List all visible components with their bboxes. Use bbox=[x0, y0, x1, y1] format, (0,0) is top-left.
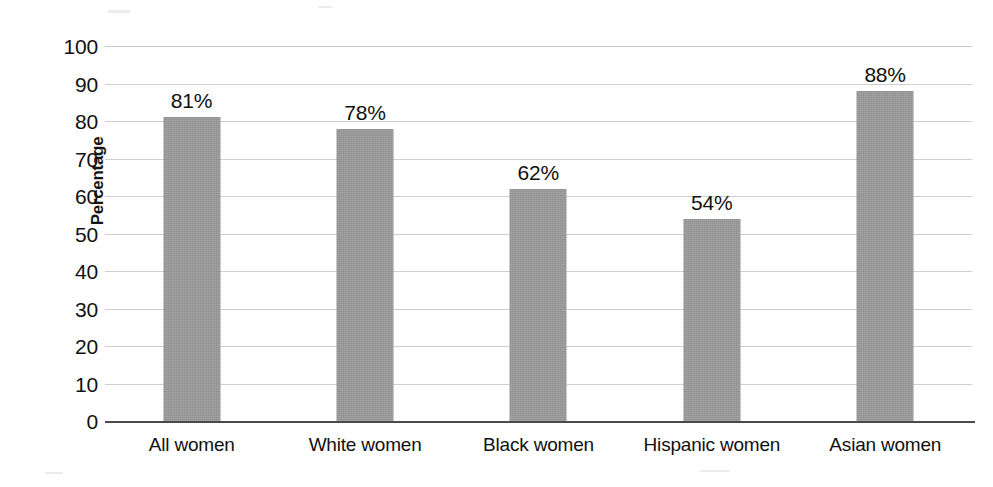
bar-group: 81% bbox=[105, 46, 278, 421]
y-tick-label: 50 bbox=[40, 223, 98, 244]
scan-artifact bbox=[318, 6, 332, 8]
bar-group: 62% bbox=[452, 46, 625, 421]
scan-artifact bbox=[700, 470, 730, 472]
x-tick-label-all-women: All women bbox=[92, 434, 292, 456]
x-tick-label-black-women: Black women bbox=[439, 434, 639, 456]
bar-black-women[interactable] bbox=[510, 189, 567, 422]
bar-white-women[interactable] bbox=[336, 129, 393, 422]
bar-all-women[interactable] bbox=[163, 117, 220, 421]
x-axis-tick-labels: All women White women Black women Hispan… bbox=[105, 434, 972, 464]
scan-artifact bbox=[45, 472, 63, 474]
bar-value-label: 62% bbox=[518, 162, 559, 183]
bar-group: 88% bbox=[799, 46, 972, 421]
bar-group: 54% bbox=[625, 46, 798, 421]
y-tick-label: 10 bbox=[40, 373, 98, 394]
y-tick-label: 90 bbox=[40, 73, 98, 94]
x-axis-line bbox=[105, 421, 975, 423]
bar-value-label: 81% bbox=[171, 90, 212, 111]
bar-value-label: 88% bbox=[864, 64, 905, 85]
y-axis-tick-labels: 100 90 80 70 60 50 40 30 20 10 0 bbox=[40, 46, 98, 421]
bar-group: 78% bbox=[278, 46, 451, 421]
y-tick-label: 40 bbox=[40, 261, 98, 282]
y-tick-label: 20 bbox=[40, 336, 98, 357]
bar-asian-women[interactable] bbox=[857, 91, 914, 421]
y-tick-label: 0 bbox=[40, 411, 98, 432]
x-tick-label-hispanic-women: Hispanic women bbox=[612, 434, 812, 456]
y-tick-label: 30 bbox=[40, 298, 98, 319]
bar-value-label: 78% bbox=[344, 102, 385, 123]
x-tick-label-white-women: White women bbox=[265, 434, 465, 456]
bar-chart-figure: Percentage 100 90 80 70 60 50 40 30 20 1… bbox=[0, 0, 993, 487]
y-tick-label: 60 bbox=[40, 186, 98, 207]
bar-value-label: 54% bbox=[691, 192, 732, 213]
bar-hispanic-women[interactable] bbox=[683, 219, 740, 422]
y-tick-label: 80 bbox=[40, 111, 98, 132]
bars-container: 81% 78% 62% 54% 88% bbox=[105, 46, 972, 421]
y-tick-label: 100 bbox=[40, 36, 98, 57]
scan-artifact bbox=[108, 10, 130, 13]
x-tick-label-asian-women: Asian women bbox=[785, 434, 985, 456]
y-tick-label: 70 bbox=[40, 148, 98, 169]
